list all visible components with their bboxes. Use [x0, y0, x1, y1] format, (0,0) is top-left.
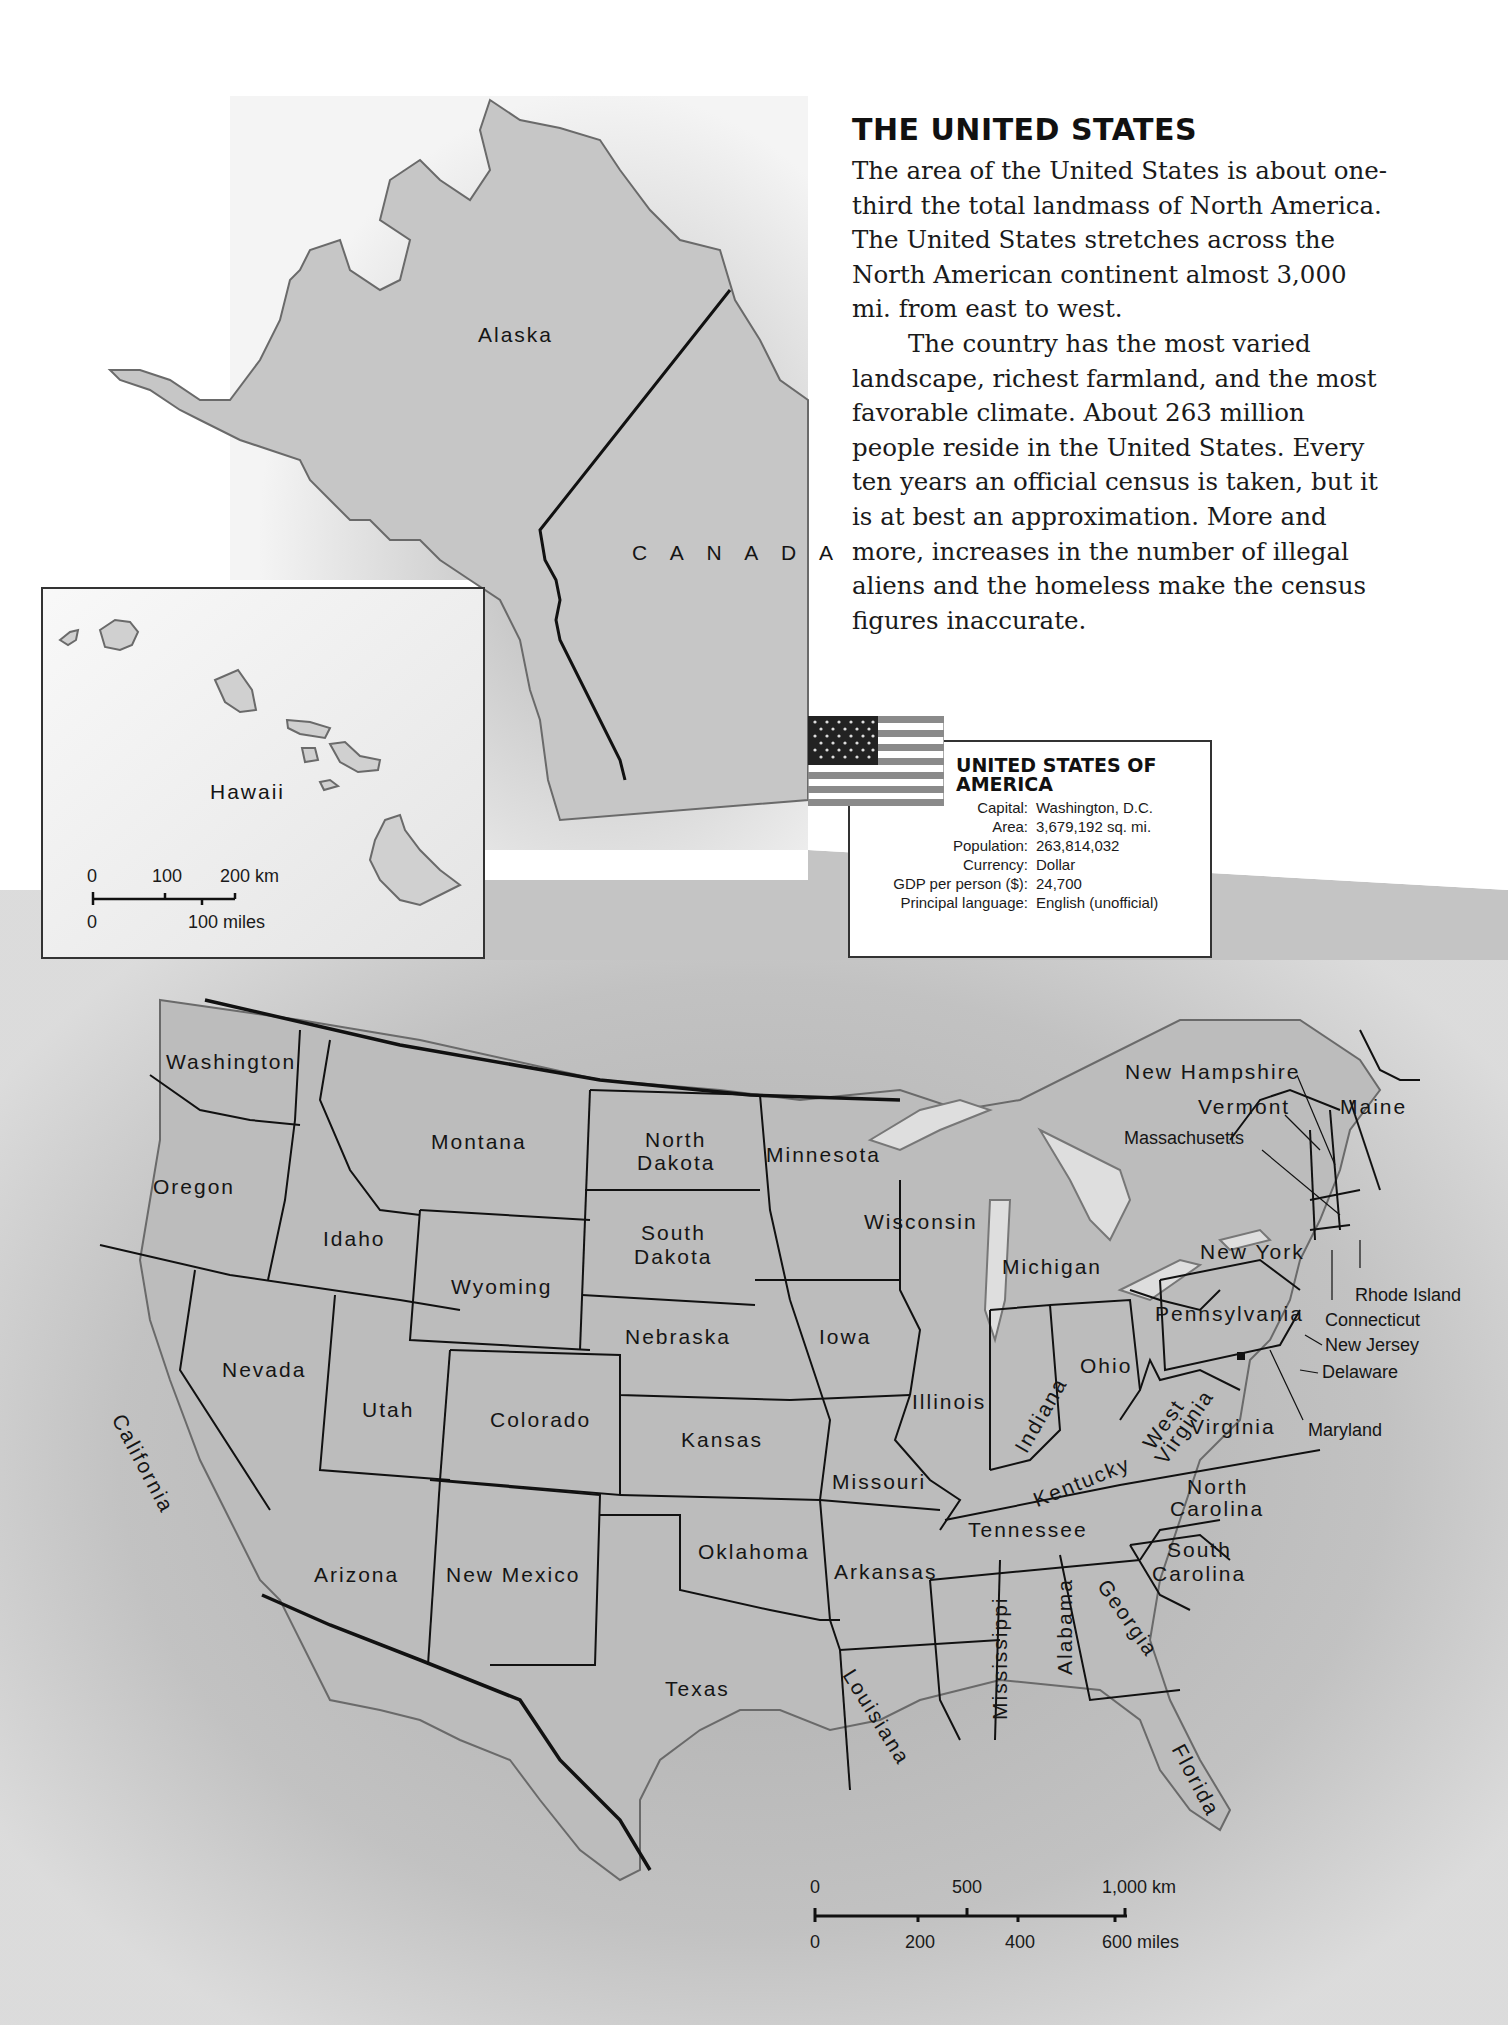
scale-km-1000: 1,000 km — [1102, 1877, 1176, 1898]
label-montana: Montana — [431, 1130, 527, 1154]
label-oregon: Oregon — [153, 1175, 235, 1199]
scale-km-0: 0 — [810, 1877, 820, 1898]
hawaii-scale-mi-100: 100 miles — [188, 912, 265, 933]
label-north-carolina-2: Carolina — [1170, 1497, 1264, 1521]
intro-paragraph-2: The country has the most varied landscap… — [852, 327, 1392, 638]
fact-label: Currency: — [850, 855, 1036, 874]
scale-mi-0: 0 — [810, 1932, 820, 1953]
factbox-title-line-2: AMERICA — [956, 775, 1157, 794]
label-north-dakota-1: North — [645, 1128, 706, 1152]
label-alaska: Alaska — [478, 323, 553, 347]
fact-row-population: Population:263,814,032 — [850, 836, 1210, 855]
us-flag-icon — [808, 716, 944, 806]
label-missouri: Missouri — [832, 1470, 926, 1494]
label-pennsylvania: Pennsylvania — [1155, 1302, 1304, 1326]
label-south-carolina-1: South — [1167, 1538, 1232, 1562]
label-virginia: Virginia — [1190, 1415, 1276, 1439]
label-mississippi: Mississippi — [988, 1596, 1012, 1720]
label-tennessee: Tennessee — [968, 1518, 1088, 1542]
label-illinois: Illinois — [912, 1390, 986, 1414]
factbox-rows: Capital:Washington, D.C. Area:3,679,192 … — [850, 798, 1210, 912]
intro-paragraph-1: The area of the United States is about o… — [852, 154, 1392, 327]
label-new-jersey: New Jersey — [1325, 1335, 1419, 1356]
hawaii-scale-mi-0: 0 — [87, 912, 97, 933]
label-kansas: Kansas — [681, 1428, 763, 1452]
label-iowa: Iowa — [819, 1325, 871, 1349]
label-nevada: Nevada — [222, 1358, 306, 1382]
fact-label: Area: — [850, 817, 1036, 836]
fact-row-language: Principal language:English (unofficial) — [850, 893, 1210, 912]
label-oklahoma: Oklahoma — [698, 1540, 810, 1564]
label-alabama: Alabama — [1053, 1578, 1077, 1675]
label-hawaii: Hawaii — [210, 780, 285, 804]
fact-value: English (unofficial) — [1036, 893, 1158, 912]
label-new-york: New York — [1200, 1240, 1305, 1264]
label-utah: Utah — [362, 1398, 414, 1422]
fact-row-gdp: GDP per person ($):24,700 — [850, 874, 1210, 893]
label-connecticut: Connecticut — [1325, 1310, 1420, 1331]
hawaii-scale-km-200: 200 km — [220, 866, 279, 887]
fact-label: Principal language: — [850, 893, 1036, 912]
label-canada: C A N A D A — [632, 541, 842, 565]
label-idaho: Idaho — [323, 1227, 386, 1251]
label-texas: Texas — [665, 1677, 730, 1701]
fact-row-currency: Currency:Dollar — [850, 855, 1210, 874]
label-north-dakota-2: Dakota — [637, 1151, 716, 1175]
hawaii-scale-km-0: 0 — [87, 866, 97, 887]
scale-km-500: 500 — [952, 1877, 982, 1898]
fact-value: 3,679,192 sq. mi. — [1036, 817, 1151, 836]
label-new-hampshire: New Hampshire — [1125, 1060, 1300, 1084]
hawaii-scale-km-100: 100 — [152, 866, 182, 887]
label-south-dakota-1: South — [641, 1221, 706, 1245]
hawaii-inset — [41, 587, 485, 959]
label-arizona: Arizona — [314, 1563, 399, 1587]
fact-value: Dollar — [1036, 855, 1075, 874]
intro-text: The area of the United States is about o… — [852, 154, 1392, 638]
scale-mi-200: 200 — [905, 1932, 935, 1953]
label-delaware: Delaware — [1322, 1362, 1398, 1383]
label-ohio: Ohio — [1080, 1354, 1132, 1378]
label-massachusetts: Massachusetts — [1124, 1128, 1244, 1149]
label-colorado: Colorado — [490, 1408, 591, 1432]
fact-row-area: Area:3,679,192 sq. mi. — [850, 817, 1210, 836]
label-arkansas: Arkansas — [834, 1560, 938, 1584]
label-vermont: Vermont — [1198, 1095, 1290, 1119]
scale-mi-400: 400 — [1005, 1932, 1035, 1953]
fact-value: 24,700 — [1036, 874, 1082, 893]
fact-label: Population: — [850, 836, 1036, 855]
page-title: THE UNITED STATES — [852, 112, 1197, 147]
capital-square-marker — [1237, 1352, 1245, 1360]
factbox-title: UNITED STATES OF AMERICA — [956, 756, 1157, 794]
fact-label: GDP per person ($): — [850, 874, 1036, 893]
label-south-carolina-2: Carolina — [1152, 1562, 1246, 1586]
label-washington: Washington — [166, 1050, 296, 1074]
label-minnesota: Minnesota — [766, 1143, 881, 1167]
scale-mi-600: 600 miles — [1102, 1932, 1179, 1953]
label-wyoming: Wyoming — [451, 1275, 552, 1299]
label-nebraska: Nebraska — [625, 1325, 731, 1349]
fact-value: Washington, D.C. — [1036, 798, 1153, 817]
label-maryland: Maryland — [1308, 1420, 1382, 1441]
fact-value: 263,814,032 — [1036, 836, 1119, 855]
label-michigan: Michigan — [1002, 1255, 1102, 1279]
label-wisconsin: Wisconsin — [864, 1210, 978, 1234]
label-north-carolina-1: North — [1187, 1475, 1248, 1499]
label-south-dakota-2: Dakota — [634, 1245, 713, 1269]
label-maine: Maine — [1340, 1095, 1407, 1119]
label-new-mexico: New Mexico — [446, 1563, 580, 1587]
label-rhode-island: Rhode Island — [1355, 1285, 1461, 1306]
